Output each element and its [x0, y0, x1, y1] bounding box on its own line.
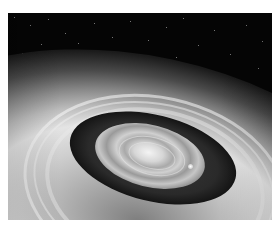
- star: [166, 27, 167, 28]
- disk-illustration: [8, 13, 272, 220]
- star: [94, 23, 95, 24]
- star: [148, 40, 149, 41]
- star: [78, 43, 79, 44]
- star: [230, 54, 231, 55]
- star: [14, 17, 15, 18]
- star: [214, 30, 215, 31]
- star: [130, 21, 131, 22]
- star: [176, 57, 177, 58]
- star: [258, 68, 259, 69]
- star: [41, 44, 42, 45]
- star: [65, 33, 66, 34]
- star: [48, 19, 49, 20]
- star: [30, 25, 31, 26]
- star: [198, 45, 199, 46]
- star: [183, 18, 184, 19]
- star: [262, 41, 263, 42]
- star: [246, 25, 247, 26]
- planet: [188, 164, 193, 169]
- star: [112, 37, 113, 38]
